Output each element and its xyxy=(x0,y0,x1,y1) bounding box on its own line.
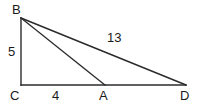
segment-BD xyxy=(21,18,186,85)
segment-BA xyxy=(21,18,105,85)
side-length-bc: 5 xyxy=(8,45,15,58)
side-length-ca: 4 xyxy=(52,89,59,102)
vertex-label-a: A xyxy=(99,89,108,102)
vertex-label-b: B xyxy=(12,3,21,16)
geometry-figure: B C A D 5 4 13 xyxy=(0,0,200,108)
vertex-label-d: D xyxy=(180,89,189,102)
vertex-label-c: C xyxy=(10,89,19,102)
side-length-bd: 13 xyxy=(107,31,121,44)
